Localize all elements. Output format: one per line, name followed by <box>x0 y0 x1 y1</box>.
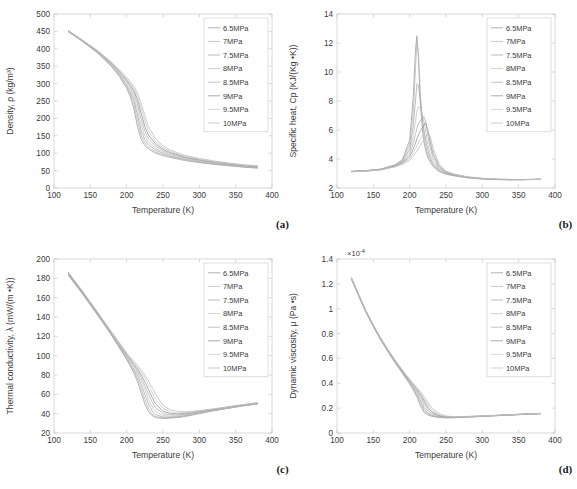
legend-label-9-5MPa: 9.5MPa <box>506 350 532 359</box>
y-axis-title: Density, ρ (kg/m³) <box>5 67 15 134</box>
legend-label-8-5MPa: 8.5MPa <box>223 78 249 87</box>
y-tick-label: 150 <box>36 132 50 141</box>
y-tick-label: 2 <box>328 184 333 193</box>
x-axis-title: Temperature (K) <box>132 205 194 215</box>
y-tick-label: 100 <box>36 352 50 361</box>
legend-label-8-5MPa: 8.5MPa <box>506 78 532 87</box>
y-axis-exponent: ×10-4 <box>347 248 365 258</box>
x-tick-label: 400 <box>265 436 279 445</box>
legend-label-7MPa: 7MPa <box>506 37 526 46</box>
plot-b: 1001502002503003504002468101214Temperatu… <box>283 0 565 244</box>
legend-box-b <box>487 18 551 132</box>
x-tick-label: 300 <box>192 191 206 200</box>
y-tick-label: 300 <box>36 80 50 89</box>
panel-a: 1001502002503003504000501001502002503003… <box>0 0 282 244</box>
legend-label-6-5MPa: 6.5MPa <box>223 24 249 33</box>
y-tick-label: 10 <box>324 68 334 77</box>
x-tick-label: 300 <box>192 436 206 445</box>
legend-label-7-5MPa: 7.5MPa <box>223 296 249 305</box>
y-tick-label: 0 <box>328 429 333 438</box>
x-tick-label: 250 <box>439 436 453 445</box>
legend-label-6-5MPa: 6.5MPa <box>223 269 249 278</box>
x-tick-label: 150 <box>83 191 97 200</box>
y-axis-title: Thermal conductivity, λ (mW/(m •K)) <box>5 277 15 414</box>
x-axis-title: Temperature (K) <box>132 450 194 460</box>
y-tick-label: 250 <box>36 97 50 106</box>
x-tick-label: 200 <box>120 436 134 445</box>
y-tick-label: 200 <box>36 255 50 264</box>
x-tick-label: 350 <box>229 436 243 445</box>
legend-label-10MPa: 10MPa <box>506 364 530 373</box>
y-tick-label: 0 <box>45 184 50 193</box>
legend-label-9MPa: 9MPa <box>223 92 243 101</box>
legend-label-7MPa: 7MPa <box>223 37 243 46</box>
legend-label-9-5MPa: 9.5MPa <box>506 105 532 114</box>
x-tick-label: 300 <box>475 436 489 445</box>
legend-label-7MPa: 7MPa <box>506 282 526 291</box>
y-tick-label: 180 <box>36 274 50 283</box>
y-tick-label: 500 <box>36 10 50 19</box>
y-tick-label: 14 <box>324 10 334 19</box>
y-tick-label: 1.2 <box>322 280 334 289</box>
y-tick-label: 450 <box>36 27 50 36</box>
x-tick-label: 150 <box>83 436 97 445</box>
y-tick-label: 6 <box>328 126 333 135</box>
y-tick-label: 0.2 <box>322 404 334 413</box>
legend-label-8MPa: 8MPa <box>223 64 243 73</box>
x-tick-label: 350 <box>512 436 526 445</box>
y-tick-label: 160 <box>36 294 50 303</box>
y-tick-label: 20 <box>41 429 51 438</box>
legend-label-6-5MPa: 6.5MPa <box>506 24 532 33</box>
y-axis-title: Dynamic viscosity, μ (Pa •s) <box>288 293 298 399</box>
y-tick-label: 100 <box>36 149 50 158</box>
x-tick-label: 400 <box>548 436 562 445</box>
x-axis-title: Temperature (K) <box>415 450 477 460</box>
legend-label-10MPa: 10MPa <box>223 364 247 373</box>
legend-label-8MPa: 8MPa <box>223 309 243 318</box>
legend-label-7-5MPa: 7.5MPa <box>506 51 532 60</box>
legend-label-6-5MPa: 6.5MPa <box>506 269 532 278</box>
legend-label-9-5MPa: 9.5MPa <box>223 350 249 359</box>
legend-label-8MPa: 8MPa <box>506 64 526 73</box>
y-tick-label: 1 <box>328 305 333 314</box>
subfigure-caption-b: (b) <box>283 218 577 230</box>
panel-b: 1001502002503003504002468101214Temperatu… <box>283 0 565 244</box>
panel-c: 1001502002503003504002040608010012014016… <box>0 245 282 489</box>
plot-a: 1001502002503003504000501001502002503003… <box>0 0 282 244</box>
y-tick-label: 60 <box>41 390 51 399</box>
legend-box-a <box>204 18 268 132</box>
legend-label-9MPa: 9MPa <box>506 337 526 346</box>
legend-label-9MPa: 9MPa <box>506 92 526 101</box>
y-tick-label: 140 <box>36 313 50 322</box>
legend-box-d <box>487 263 551 377</box>
y-tick-label: 200 <box>36 114 50 123</box>
y-tick-label: 400 <box>36 45 50 54</box>
y-tick-label: 8 <box>328 97 333 106</box>
plot-d: 10015020025030035040000.20.40.60.811.21.… <box>283 245 565 489</box>
y-tick-label: 50 <box>41 167 51 176</box>
legend-label-10MPa: 10MPa <box>223 119 247 128</box>
x-tick-label: 400 <box>265 191 279 200</box>
legend-label-7-5MPa: 7.5MPa <box>506 296 532 305</box>
legend-label-8-5MPa: 8.5MPa <box>506 323 532 332</box>
y-tick-label: 80 <box>41 371 51 380</box>
x-tick-label: 350 <box>512 191 526 200</box>
x-axis-title: Temperature (K) <box>415 205 477 215</box>
x-tick-label: 250 <box>156 191 170 200</box>
x-tick-label: 150 <box>366 191 380 200</box>
x-tick-label: 250 <box>156 436 170 445</box>
x-tick-label: 200 <box>403 436 417 445</box>
y-tick-label: 0.6 <box>322 354 334 363</box>
legend-label-9MPa: 9MPa <box>223 337 243 346</box>
y-tick-label: 120 <box>36 332 50 341</box>
y-axis-title: Specific heat, Cp (KJ/(Kg •K)) <box>288 44 298 157</box>
x-tick-label: 150 <box>366 436 380 445</box>
series-curve-9-5MPa <box>352 129 541 179</box>
y-tick-label: 40 <box>41 410 51 419</box>
x-tick-label: 350 <box>229 191 243 200</box>
legend-label-8MPa: 8MPa <box>506 309 526 318</box>
legend-label-8-5MPa: 8.5MPa <box>223 323 249 332</box>
x-tick-label: 200 <box>403 191 417 200</box>
panel-d: 10015020025030035040000.20.40.60.811.21.… <box>283 245 565 489</box>
